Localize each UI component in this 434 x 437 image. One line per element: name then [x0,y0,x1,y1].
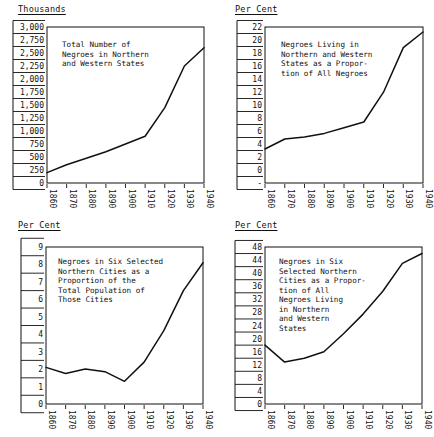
chart-title-line: Negroes Living [279,295,343,304]
x-axis-tick-label: 1870 [67,410,76,429]
chart-title-line: Northern and Western [281,50,372,59]
y-axis-tick-label: 1,000 [20,127,44,136]
x-axis-tick-label: 1860 [47,410,56,429]
y-axis-tick-label: 14 [252,75,262,84]
chart-title-line: and Western States [62,59,144,68]
y-axis-tick-label: 10 [252,101,262,110]
y-axis-tick-label: 3 [38,348,43,357]
x-axis-tick-label: 1890 [325,189,334,208]
x-axis-tick-label: 1920 [166,189,175,208]
y-axis-tick-label: 24 [252,322,262,331]
x-axis-tick-label: 1860 [48,189,57,208]
y-axis-tick-label: 20 [252,36,262,45]
y-axis-tick-label: 1,500 [20,101,44,110]
y-axis-tick-label: 48 [252,243,262,252]
x-axis-tick-label: 1900 [345,410,354,429]
x-axis-tick-label: 1900 [126,410,135,429]
y-axis-tick-label: 2,750 [20,36,44,45]
x-axis-tick-label: 1940 [204,410,213,429]
chart-bottom-left: 9876543210186018701880189019001910192019… [0,216,217,437]
x-axis-tick-label: 1940 [205,189,214,208]
chart-title-line: Negroes in Six [279,257,343,266]
chart-title-line: and Western [279,314,329,323]
y-axis-tick-label: 8 [257,374,262,383]
chart-top-right: 2220181614121086420-18601870188018901900… [217,0,434,218]
y-axis-tick-label: 32 [252,295,262,304]
chart-title-line: Negroes Living in [281,40,359,49]
y-axis-tick-label: 0 [38,400,43,409]
chart-title-line: Selected Northern [279,267,357,276]
x-axis-tick-label: 1910 [146,189,155,208]
y-axis-tick-label: 2,250 [20,62,44,71]
x-axis-tick-label: 1870 [68,189,77,208]
x-axis-tick-label: 1890 [107,189,116,208]
y-axis-tick-label: 8 [257,114,262,123]
y-axis-tick-label: 2 [38,365,43,374]
y-axis-tick-label: 12 [252,361,262,370]
x-axis-tick-label: 1860 [266,410,275,429]
x-axis-tick-label: 1930 [184,410,193,429]
y-axis-tick-label: 2,000 [20,75,44,84]
x-axis-tick-label: 1880 [305,410,314,429]
y-axis-tick-label: 500 [30,153,45,162]
x-axis-tick-label: 1910 [365,189,374,208]
y-axis-tick-label: 6 [38,295,43,304]
y-axis-tick-label: 44 [252,256,262,265]
y-axis-tick-label: 18 [252,49,262,58]
y-axis-tick-label: 1 [38,383,43,392]
x-axis-tick-label: 1880 [87,189,96,208]
y-axis-tick-label: 2,500 [20,49,44,58]
chart-title-line: tion of All Negroes [281,69,368,78]
chart-title-line: Northern Cities as a [58,267,149,276]
y-axis-tick-label: 4 [257,140,262,149]
y-axis-tick-label: 20 [252,335,262,344]
y-axis-tick-label: 1,750 [20,88,44,97]
x-axis-tick-label: 1940 [424,189,433,208]
x-axis-tick-label: 1910 [364,410,373,429]
chart-title-line: Cities as a Propor- [279,276,366,285]
chart-title-line: States [279,324,306,333]
x-axis-tick-label: 1940 [423,410,432,429]
chart-panel-bottom-right: Per Cent 4844403632282420161284018601870… [217,216,434,434]
chart-bottom-right: 4844403632282420161284018601870188018901… [217,216,434,437]
y-axis-tick-label: 16 [252,348,262,357]
y-axis-tick-label: 7 [38,278,43,287]
x-axis-tick-label: 1870 [286,410,295,429]
y-axis-tick-label: 9 [38,243,43,252]
chart-title-line: Proportion of the [58,276,136,285]
x-axis-tick-label: 1880 [306,189,315,208]
chart-title-line: Negroes in Six Selected [58,257,163,266]
y-axis-tick-label: 1,250 [20,114,44,123]
chart-title-line: tion of All [279,286,329,295]
y-axis-tick-label: 22 [252,23,262,32]
y-axis-tick-label: 750 [30,140,45,149]
x-axis-tick-label: 1860 [266,189,275,208]
y-axis-tick-label: 36 [252,282,262,291]
y-axis-tick-label: 0 [257,166,262,175]
chart-panel-bottom-left: Per Cent 9876543210186018701880189019001… [0,216,217,434]
chart-title-line: Negroes in Northern [62,50,149,59]
y-axis-tick-label: - [257,179,262,188]
x-axis-tick-label: 1920 [385,189,394,208]
chart-title-line: in Northern [279,305,329,314]
y-axis-tick-label: 5 [38,313,43,322]
x-axis-tick-label: 1930 [185,189,194,208]
chart-panel-top-right: Per Cent 2220181614121086420-18601870188… [217,0,434,218]
x-axis-tick-label: 1880 [86,410,95,429]
y-axis-tick-label: 4 [38,330,43,339]
chart-top-left: 3,0002,7502,5002,2502,0001,7501,5001,250… [0,0,217,218]
y-axis-tick-label: 3,000 [20,23,44,32]
chart-title-line: Total Population of [58,286,145,295]
x-axis-tick-label: 1900 [127,189,136,208]
x-axis-tick-label: 1930 [403,410,412,429]
y-axis-tick-label: 6 [257,127,262,136]
y-axis-tick-label: 0 [39,179,44,188]
y-axis-tick-label: 28 [252,308,262,317]
chart-title-line: Those Cities [58,295,113,304]
x-axis-tick-label: 1930 [404,189,413,208]
y-axis-tick-label: 8 [38,260,43,269]
x-axis-tick-label: 1910 [145,410,154,429]
y-axis-tick-label: 250 [30,166,45,175]
x-axis-tick-label: 1890 [325,410,334,429]
y-axis-tick-label: 12 [252,88,262,97]
